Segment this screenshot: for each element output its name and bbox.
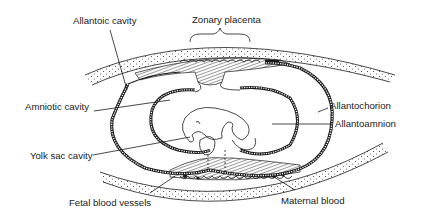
placenta-diagram: Allantoic cavity Zonary placenta Amnioti… [0,0,421,220]
label-allantoamnion: Allantoamnion [335,118,396,129]
label-yolk-sac-cavity: Yolk sac cavity [30,150,93,161]
label-allantochorion: Allantochorion [330,100,391,111]
label-allantoic-cavity: Allantoic cavity [73,15,137,26]
zonary-placenta-brace [190,28,250,42]
label-fetal-blood-vessels: Fetal blood vessels [69,197,151,208]
lower-placenta-zone [170,158,300,181]
label-zonary-placenta: Zonary placenta [192,14,261,25]
embryo [182,107,249,142]
label-amniotic-cavity: Amniotic cavity [25,101,89,112]
label-maternal-blood: Maternal blood [281,195,344,206]
allantoamnion-membrane [151,87,298,154]
